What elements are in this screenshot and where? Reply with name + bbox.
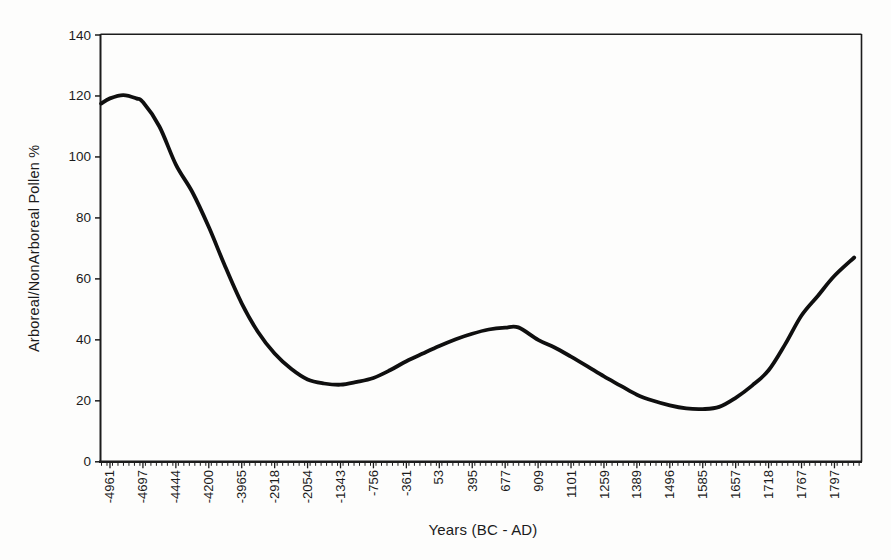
y-axis-title: Arboreal/NonArboreal Pollen %	[26, 145, 42, 352]
y-tick-label: 100	[51, 149, 91, 164]
x-tick-label: 1496	[663, 470, 676, 499]
x-tick-label: -4961	[104, 470, 117, 503]
x-tick-label: 1585	[696, 470, 709, 499]
x-tick-label: -361	[400, 470, 413, 496]
x-tick-label: -2918	[268, 470, 281, 503]
x-tick-label: 1797	[828, 470, 841, 499]
x-tick-label: -1343	[334, 470, 347, 503]
x-tick-label: 1389	[630, 470, 643, 499]
x-tick-label: -2054	[301, 470, 314, 503]
x-tick-label: -4697	[136, 470, 149, 503]
x-tick-label: 395	[466, 470, 479, 492]
x-tick-label: 1101	[565, 470, 578, 498]
y-tick-label: 80	[51, 210, 91, 225]
y-tick-label: 40	[51, 332, 91, 347]
x-tick-label: 1259	[597, 470, 610, 499]
x-tick-label: 1767	[795, 470, 808, 499]
x-tick-label: 677	[499, 470, 512, 492]
x-axis-title: Years (BC - AD)	[428, 521, 537, 538]
x-tick-label: -756	[367, 470, 380, 496]
y-tick-label: 120	[51, 88, 91, 103]
y-tick-label: 20	[51, 393, 91, 408]
x-tick-label: 909	[532, 470, 545, 492]
y-tick-label: 140	[51, 28, 91, 43]
x-tick-label: -3965	[235, 470, 248, 503]
x-tick-label: 1718	[762, 470, 775, 499]
x-tick-label: -4444	[169, 470, 182, 503]
x-tick-label: -4200	[202, 470, 215, 503]
y-tick-label: 60	[51, 271, 91, 286]
x-tick-label: 1657	[729, 470, 742, 499]
pollen-chart-figure: Arboreal/NonArboreal Pollen % Years (BC …	[0, 0, 891, 560]
y-tick-label: 0	[51, 454, 91, 469]
x-tick-label: 53	[433, 470, 446, 484]
pollen-ratio-curve	[101, 95, 854, 409]
